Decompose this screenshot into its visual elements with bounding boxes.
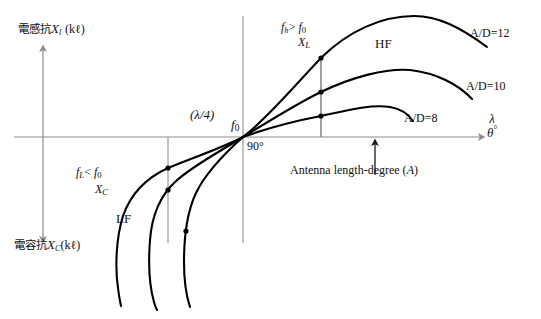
y-axis-bottom-label: 電容抗XC(kℓ) — [14, 238, 80, 254]
curve-label-ad10: A/D=10 — [466, 80, 505, 93]
curve-ad12-lf — [116, 137, 243, 306]
right-angle-label: 90° — [247, 140, 264, 153]
region-label-lf: LF — [116, 212, 131, 226]
y-axis-top-label-subscript: l — [59, 28, 61, 37]
y-axis-top-label: 電感抗Xl (kℓ) — [18, 22, 85, 38]
y-axis-bottom-label-jp: 電容抗 — [14, 238, 47, 252]
marker-ad8-hf — [318, 113, 323, 118]
y-axis-bottom-label-symbol: X — [47, 237, 55, 252]
low-freq-reactance-label: XC — [95, 183, 108, 197]
x-axis-callout-label: Antenna length-degree (A) — [290, 164, 418, 177]
high-freq-condition-label: fh> f0 — [281, 21, 306, 35]
region-label-hf: HF — [375, 37, 392, 51]
marker-ad12-hf — [318, 55, 323, 60]
curve-label-ad8: A/D=8 — [404, 112, 437, 125]
x-axis-label-theta: θ° — [487, 126, 497, 140]
low-freq-condition-label: fL< f0 — [76, 166, 102, 180]
marker-ad12-lf — [165, 165, 170, 170]
curve-ad10-lf — [149, 137, 243, 310]
diagram-canvas — [0, 0, 541, 319]
curve-ad8-lf — [184, 137, 243, 307]
marker-ad10-hf — [318, 89, 323, 94]
x-axis-label: λ θ° — [487, 112, 497, 139]
y-axis-bottom-label-unit: (kℓ) — [60, 238, 80, 252]
origin-quarter-wave-note: (λ/4) — [190, 108, 214, 122]
curve-label-ad12: A/D=12 — [470, 27, 509, 40]
reactance-diagram: 電感抗Xl (kℓ) 電容抗XC(kℓ) λ θ° (λ/4) f0 90° f… — [0, 0, 541, 319]
high-freq-reactance-label: XL — [298, 36, 310, 50]
origin-note-text: (λ/4) — [190, 107, 214, 122]
marker-ad8-lf — [183, 228, 188, 233]
y-axis-top-label-jp: 電感抗 — [18, 22, 51, 36]
origin-frequency-label: f0 — [231, 118, 239, 134]
y-axis-top-label-unit: (kℓ) — [65, 22, 85, 36]
x-axis-label-lambda: λ — [487, 112, 497, 126]
marker-ad10-lf — [165, 187, 170, 192]
y-axis-top-label-symbol: X — [51, 21, 59, 36]
